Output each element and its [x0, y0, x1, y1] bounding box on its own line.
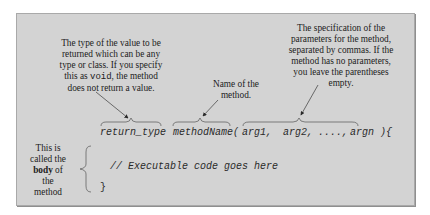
method-name-arrow — [203, 100, 218, 116]
body-brace — [80, 146, 91, 192]
return-type-arrow — [96, 92, 128, 118]
parameters-arrow — [301, 85, 318, 115]
return-type-brace — [101, 118, 161, 126]
annotation-arrows — [0, 0, 430, 215]
parameters-brace — [243, 118, 358, 126]
method-name-brace — [173, 118, 230, 126]
